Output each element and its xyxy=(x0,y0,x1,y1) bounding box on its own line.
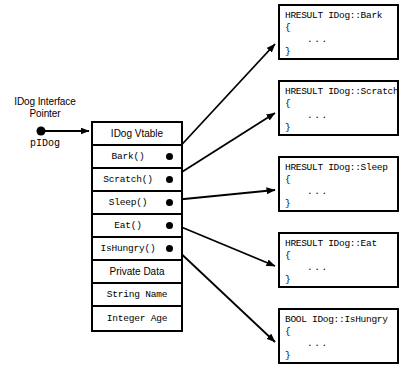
impl-signature-eat: HRESULT IDog::Eat xyxy=(285,238,397,250)
vtable-row-private-data-label: Private Data xyxy=(109,266,164,277)
vtable-box: IDog Vtable Bark() Scratch() Sleep() Eat… xyxy=(91,121,183,332)
vtable-diagram: IDog Interface Pointer pIDog IDog Vtable… xyxy=(0,0,405,380)
vtable-row-bark[interactable]: Bark() xyxy=(93,146,181,169)
impl-close-brace-ishungry: } xyxy=(285,350,397,362)
impl-box-bark: HRESULT IDog::Bark { ... } xyxy=(278,4,399,60)
impl-box-scratch: HRESULT IDog::Scratch { ... } xyxy=(278,80,399,136)
impl-body-sleep: ... xyxy=(285,186,397,198)
arrow-sleep-to-impl xyxy=(174,190,275,200)
vtable-row-bark-label: Bark() xyxy=(111,151,144,162)
function-pointer-dot-bark xyxy=(166,153,173,160)
vtable-row-header: IDog Vtable xyxy=(93,123,181,146)
impl-box-ishungry: BOOL IDog::IsHungry { ... } xyxy=(278,308,399,364)
vtable-row-sleep[interactable]: Sleep() xyxy=(93,192,181,215)
impl-body-scratch: ... xyxy=(285,110,397,122)
vtable-row-ishungry-label: IsHungry() xyxy=(100,243,155,254)
impl-open-brace-sleep: { xyxy=(285,174,397,186)
interface-pointer-variable: pIDog xyxy=(2,138,88,150)
vtable-row-private-data: Private Data xyxy=(93,261,181,284)
impl-signature-bark: HRESULT IDog::Bark xyxy=(285,10,397,22)
function-pointer-dot-sleep xyxy=(166,199,173,206)
function-pointer-dot-eat xyxy=(166,222,173,229)
vtable-row-string-name: String Name xyxy=(93,284,181,307)
vtable-row-eat[interactable]: Eat() xyxy=(93,215,181,238)
impl-close-brace-eat: } xyxy=(285,274,397,286)
function-pointer-dot-ishungry xyxy=(166,245,173,252)
interface-pointer-dot xyxy=(37,127,46,136)
vtable-row-integer-age: Integer Age xyxy=(93,307,181,330)
impl-signature-sleep: HRESULT IDog::Sleep xyxy=(285,162,397,174)
impl-open-brace-ishungry: { xyxy=(285,326,397,338)
impl-open-brace-scratch: { xyxy=(285,98,397,110)
vtable-row-scratch[interactable]: Scratch() xyxy=(93,169,181,192)
vtable-row-string-name-label: String Name xyxy=(107,289,168,300)
impl-body-ishungry: ... xyxy=(285,338,397,350)
vtable-header-label: IDog Vtable xyxy=(111,128,163,139)
impl-body-eat: ... xyxy=(285,262,397,274)
impl-open-brace-eat: { xyxy=(285,250,397,262)
vtable-row-ishungry[interactable]: IsHungry() xyxy=(93,238,181,261)
interface-pointer-label-line1: IDog Interface xyxy=(2,96,88,108)
impl-open-brace-bark: { xyxy=(285,22,397,34)
interface-pointer-label: IDog Interface Pointer xyxy=(2,96,88,120)
impl-signature-ishungry: BOOL IDog::IsHungry xyxy=(285,314,397,326)
impl-body-bark: ... xyxy=(285,34,397,46)
interface-pointer-label-line2: Pointer xyxy=(2,108,88,120)
vtable-row-scratch-label: Scratch() xyxy=(103,174,153,185)
vtable-row-sleep-label: Sleep() xyxy=(109,197,148,208)
impl-box-eat: HRESULT IDog::Eat { ... } xyxy=(278,232,399,288)
arrow-scratch-to-impl xyxy=(174,113,275,177)
vtable-row-eat-label: Eat() xyxy=(114,220,142,231)
impl-close-brace-sleep: } xyxy=(285,198,397,210)
arrow-eat-to-impl xyxy=(174,224,275,266)
arrow-ishungry-to-impl xyxy=(174,247,275,342)
impl-signature-scratch: HRESULT IDog::Scratch xyxy=(285,86,397,98)
vtable-row-integer-age-label: Integer Age xyxy=(107,313,168,324)
impl-close-brace-scratch: } xyxy=(285,122,397,134)
impl-box-sleep: HRESULT IDog::Sleep { ... } xyxy=(278,156,399,212)
function-pointer-dot-scratch xyxy=(166,176,173,183)
arrow-bark-to-impl xyxy=(174,44,275,153)
impl-close-brace-bark: } xyxy=(285,46,397,58)
